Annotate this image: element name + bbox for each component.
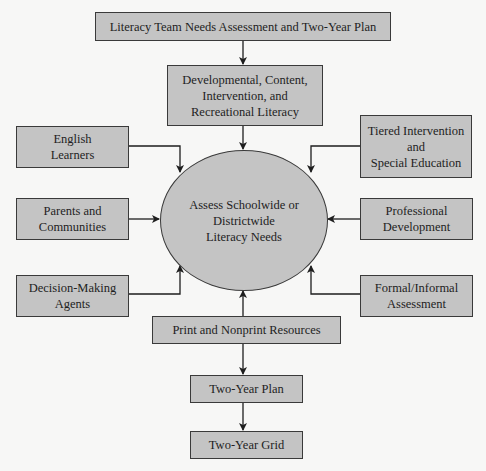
resources-label: Print and Nonprint Resources bbox=[172, 322, 320, 338]
assess-needs-ellipse: Assess Schoolwide or Districtwide Litera… bbox=[160, 150, 328, 291]
parents-communities-line-1: Parents and bbox=[44, 203, 102, 219]
two-year-grid-label: Two-Year Grid bbox=[209, 437, 284, 453]
arrow-tiered-to-center bbox=[311, 146, 360, 172]
tiered-intervention-box: Tiered Intervention and Special Educatio… bbox=[360, 115, 472, 178]
two-year-grid-box: Two-Year Grid bbox=[190, 431, 303, 459]
literacy-types-box: Developmental, Content, Intervention, an… bbox=[167, 65, 323, 126]
literacy-team-label: Literacy Team Needs Assessment and Two-Y… bbox=[110, 19, 377, 35]
arrow-decision-to-center bbox=[128, 266, 180, 294]
center-line-3: Literacy Needs bbox=[206, 229, 282, 245]
decision-making-box: Decision-Making Agents bbox=[16, 275, 129, 317]
professional-development-line-1: Professional bbox=[386, 203, 448, 219]
tiered-intervention-line-1: Tiered Intervention bbox=[368, 123, 464, 139]
formal-informal-line-2: Assessment bbox=[387, 296, 446, 312]
literacy-types-line-2: Intervention, and bbox=[202, 88, 287, 104]
center-line-1: Assess Schoolwide or bbox=[189, 197, 299, 213]
parents-communities-box: Parents and Communities bbox=[16, 198, 129, 240]
formal-informal-assessment-box: Formal/Informal Assessment bbox=[360, 275, 473, 317]
parents-communities-line-2: Communities bbox=[39, 219, 106, 235]
english-learners-box: English Learners bbox=[16, 126, 129, 168]
print-nonprint-resources-box: Print and Nonprint Resources bbox=[152, 316, 341, 344]
center-line-2: Districtwide bbox=[213, 213, 275, 229]
tiered-intervention-line-2: and bbox=[407, 139, 425, 155]
literacy-types-line-3: Recreational Literacy bbox=[191, 104, 299, 120]
english-learners-line-1: English bbox=[53, 131, 91, 147]
arrow-english-to-center bbox=[128, 146, 180, 172]
literacy-team-box: Literacy Team Needs Assessment and Two-Y… bbox=[95, 12, 391, 41]
professional-development-box: Professional Development bbox=[360, 198, 473, 240]
two-year-plan-label: Two-Year Plan bbox=[209, 381, 284, 397]
arrow-formal-to-center bbox=[311, 266, 360, 294]
english-learners-line-2: Learners bbox=[51, 147, 95, 163]
formal-informal-line-1: Formal/Informal bbox=[375, 280, 458, 296]
decision-making-line-2: Agents bbox=[55, 296, 90, 312]
tiered-intervention-line-3: Special Education bbox=[371, 155, 462, 171]
professional-development-line-2: Development bbox=[383, 219, 450, 235]
literacy-types-line-1: Developmental, Content, bbox=[182, 72, 307, 88]
decision-making-line-1: Decision-Making bbox=[29, 280, 116, 296]
two-year-plan-box: Two-Year Plan bbox=[190, 375, 303, 403]
